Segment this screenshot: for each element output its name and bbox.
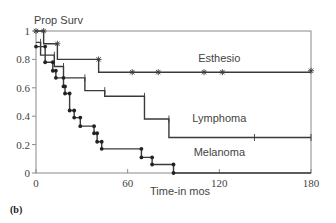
event-dot (150, 155, 154, 159)
event-dot (140, 147, 144, 151)
event-dot (68, 92, 72, 96)
event-dot (140, 155, 144, 159)
event-dot (51, 60, 55, 64)
series-labels: EsthesioLymphomaMelanoma (192, 52, 247, 158)
event-dot (62, 76, 66, 80)
panel-label: (b) (10, 204, 22, 215)
event-dot (68, 109, 72, 113)
event-dot (34, 45, 38, 49)
event-dot (100, 140, 104, 144)
censor-star (129, 69, 135, 75)
event-dot (43, 60, 47, 64)
y-tick-label: 0.6 (16, 82, 30, 94)
km-curve-esthesio (36, 31, 311, 72)
event-dot (54, 69, 58, 73)
censor-star (41, 28, 47, 34)
censor-star (219, 69, 225, 75)
y-tick-label: 0.4 (16, 110, 30, 122)
x-axis-title: Time-in mos (150, 185, 211, 197)
y-tick-label: 0 (25, 167, 31, 179)
series-label-esthesio: Esthesio (198, 52, 240, 64)
series-label-lymphoma: Lymphoma (192, 112, 247, 124)
event-dot (54, 76, 58, 80)
series-markers (33, 28, 314, 175)
censor-star (201, 69, 207, 75)
censor-star (96, 56, 102, 62)
y-tick-label: 0.8 (16, 53, 30, 65)
event-dot (172, 163, 176, 167)
x-tick-label: 180 (303, 177, 320, 189)
event-dot (100, 147, 104, 151)
y-axis-ticks: 00.20.40.60.81 (16, 25, 36, 179)
survival-chart: 00.20.40.60.81 060120180 EsthesioLymphom… (0, 0, 336, 223)
censor-star (33, 28, 39, 34)
series-label-melanoma: Melanoma (194, 146, 246, 158)
event-dot (63, 92, 67, 96)
event-dot (92, 124, 96, 128)
event-dot (150, 163, 154, 167)
series-lines (36, 31, 311, 173)
y-axis-title: Prop Surv (34, 14, 83, 26)
event-dot (72, 116, 76, 120)
km-curve-melanoma (36, 47, 311, 173)
y-tick-label: 1 (25, 25, 31, 37)
event-dot (95, 140, 99, 144)
event-dot (172, 171, 176, 175)
event-dot (78, 124, 82, 128)
event-dot (95, 131, 99, 135)
x-tick-label: 60 (122, 177, 134, 189)
plot-border (36, 31, 311, 173)
x-tick-label: 120 (211, 177, 228, 189)
censor-star (54, 41, 60, 47)
event-dot (63, 84, 67, 88)
x-tick-label: 0 (33, 177, 39, 189)
censor-star (155, 69, 161, 75)
event-dot (72, 109, 76, 113)
y-tick-label: 0.2 (16, 139, 30, 151)
event-dot (43, 45, 47, 49)
km-curve-lymphoma (36, 42, 311, 137)
censor-star (308, 68, 314, 74)
plot-frame (36, 31, 311, 173)
event-dot (78, 116, 82, 120)
